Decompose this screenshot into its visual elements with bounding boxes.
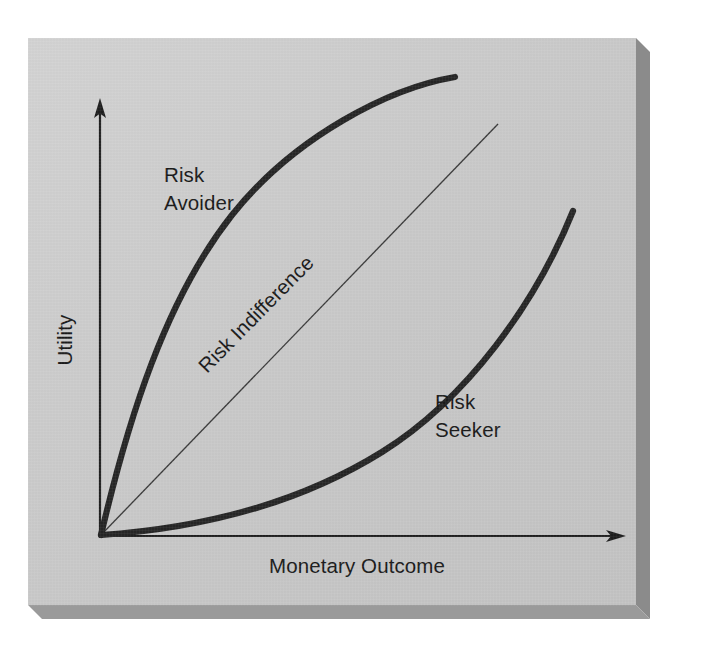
x-axis-title: Monetary Outcome [269,554,445,577]
panel-bevel-bottom [28,605,650,619]
y-axis-title: Utility [53,314,76,365]
risk-avoider-label-line2: Avoider [164,191,234,214]
risk-avoider-label-line1: Risk [164,163,205,186]
risk-seeker-label-line1: Risk [435,390,476,413]
panel-bevel-right [636,38,650,619]
panel-shade [28,38,636,605]
utility-diagram: Risk Avoider Risk Seeker Risk Indifferen… [0,0,705,650]
risk-seeker-label-line2: Seeker [435,418,501,441]
figure-root: Risk Avoider Risk Seeker Risk Indifferen… [0,0,705,650]
